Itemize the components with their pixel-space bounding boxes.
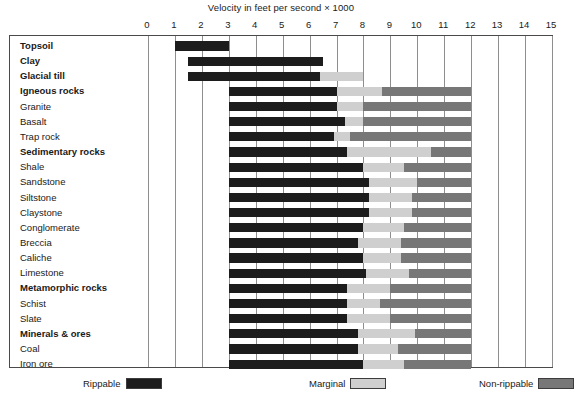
bar-segment-non-rippable <box>390 314 471 323</box>
bar-segment-marginal <box>363 223 403 232</box>
row-label-metamorphic-rocks: Metamorphic rocks <box>20 280 107 296</box>
bar-segment-non-rippable <box>417 178 471 187</box>
bar-segment-rippable <box>229 223 364 232</box>
bar-segment-marginal <box>358 344 398 353</box>
row-label-siltstone: Siltstone <box>20 190 56 206</box>
bar-track <box>10 296 552 312</box>
bar-track <box>10 220 552 236</box>
x-tick-5: 5 <box>279 19 284 30</box>
bar-segment-rippable <box>229 147 348 156</box>
row-label-conglomerate: Conglomerate <box>20 220 80 236</box>
bar-segment-marginal <box>320 72 363 81</box>
bar-track <box>10 356 552 372</box>
bar-track <box>10 114 552 130</box>
bar-segment-marginal <box>337 87 383 96</box>
bar-segment-non-rippable <box>431 147 471 156</box>
bar-segment-non-rippable <box>398 344 471 353</box>
chart-row: Caliche <box>10 250 552 266</box>
row-label-clay: Clay <box>20 53 40 69</box>
legend-swatch <box>538 378 574 389</box>
row-label-granite: Granite <box>20 99 51 115</box>
x-tick-6: 6 <box>306 19 311 30</box>
bar-segment-non-rippable <box>404 360 471 369</box>
legend-label: Marginal <box>309 378 345 389</box>
bar-segment-marginal <box>345 117 364 126</box>
chart-row: Sedimentary rocks <box>10 144 552 160</box>
bar-segment-non-rippable <box>409 269 471 278</box>
legend-swatch <box>350 378 386 389</box>
chart-legend: RippableMarginalNon-rippable <box>9 374 553 400</box>
bar-segment-non-rippable <box>412 208 471 217</box>
legend-label: Rippable <box>83 378 121 389</box>
bar-segment-rippable <box>229 314 348 323</box>
chart-row: Metamorphic rocks <box>10 280 552 296</box>
x-tick-3: 3 <box>225 19 230 30</box>
bar-segment-non-rippable <box>380 299 472 308</box>
bar-segment-marginal <box>347 147 430 156</box>
gridline-15 <box>552 36 553 367</box>
chart-rows: TopsoilClayGlacial tillIgneous rocksGran… <box>10 36 552 367</box>
row-label-claystone: Claystone <box>20 205 62 221</box>
bar-segment-rippable <box>188 57 323 66</box>
bar-segment-marginal <box>369 208 412 217</box>
bar-track <box>10 83 552 99</box>
bar-track <box>10 326 552 342</box>
bar-track <box>10 190 552 206</box>
chart-row: Basalt <box>10 114 552 130</box>
bar-track <box>10 174 552 190</box>
row-label-sedimentary-rocks: Sedimentary rocks <box>20 144 105 160</box>
chart-title: Velocity in feet per second × 1000 <box>0 2 562 13</box>
bar-track <box>10 99 552 115</box>
chart-row: Conglomerate <box>10 220 552 236</box>
x-tick-10: 10 <box>411 19 422 30</box>
bar-segment-marginal <box>363 253 401 262</box>
bar-segment-non-rippable <box>401 238 471 247</box>
chart-row: Minerals & ores <box>10 326 552 342</box>
bar-track <box>10 159 552 175</box>
x-tick-1: 1 <box>171 19 176 30</box>
row-label-igneous-rocks: Igneous rocks <box>20 83 84 99</box>
bar-segment-non-rippable <box>390 284 471 293</box>
bar-segment-marginal <box>337 102 364 111</box>
chart-row: Topsoil <box>10 38 552 54</box>
bar-segment-marginal <box>369 193 412 202</box>
bar-segment-marginal <box>363 163 403 172</box>
bar-segment-non-rippable <box>415 329 472 338</box>
row-label-basalt: Basalt <box>20 114 46 130</box>
chart-row: Trap rock <box>10 129 552 145</box>
bar-track <box>10 311 552 327</box>
x-tick-7: 7 <box>333 19 338 30</box>
plot-area: TopsoilClayGlacial tillIgneous rocksGran… <box>9 35 553 368</box>
bar-track <box>10 235 552 251</box>
bar-segment-non-rippable <box>350 132 471 141</box>
bar-segment-rippable <box>229 87 337 96</box>
x-tick-2: 2 <box>198 19 203 30</box>
x-tick-8: 8 <box>360 19 365 30</box>
chart-row: Clay <box>10 53 552 69</box>
bar-segment-marginal <box>347 299 379 308</box>
row-label-caliche: Caliche <box>20 250 52 266</box>
bar-segment-rippable <box>229 163 364 172</box>
x-tick-15: 15 <box>546 19 557 30</box>
bar-segment-rippable <box>229 208 369 217</box>
bar-segment-rippable <box>229 360 364 369</box>
chart-row: Limestone <box>10 265 552 281</box>
bar-segment-marginal <box>363 360 403 369</box>
bar-segment-rippable <box>229 329 358 338</box>
row-label-breccia: Breccia <box>20 235 52 251</box>
bar-track <box>10 205 552 221</box>
bar-segment-rippable <box>229 284 348 293</box>
bar-segment-marginal <box>358 238 401 247</box>
bar-segment-non-rippable <box>404 163 471 172</box>
x-axis-tick-labels: 0123456789101112131415 <box>0 19 562 33</box>
chart-row: Glacial till <box>10 68 552 84</box>
bar-segment-rippable <box>229 344 358 353</box>
bar-segment-rippable <box>229 193 369 202</box>
chart-row: Igneous rocks <box>10 83 552 99</box>
bar-track <box>10 129 552 145</box>
bar-segment-rippable <box>229 117 345 126</box>
legend-label: Non-rippable <box>479 378 533 389</box>
x-tick-11: 11 <box>438 19 448 30</box>
bar-segment-rippable <box>229 299 348 308</box>
